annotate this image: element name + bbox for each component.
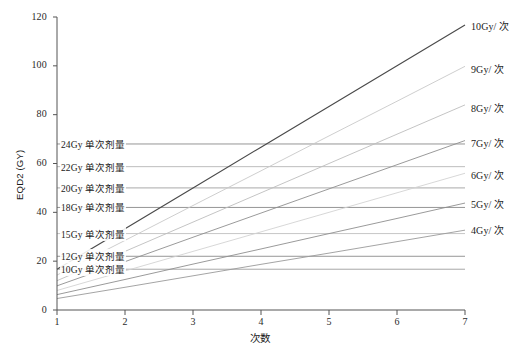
series-label-0: 10Gy/ 次: [471, 18, 509, 33]
y-tick-label-4: 80: [17, 108, 47, 119]
x-axis-title: 次数: [200, 330, 320, 345]
x-tick-label-1: 2: [115, 316, 135, 327]
series-label-4: 6Gy/ 次: [471, 167, 504, 182]
y-tick-label-5: 100: [17, 59, 47, 70]
series-label-6: 4Gy/ 次: [471, 222, 504, 237]
x-tick-label-3: 4: [251, 316, 271, 327]
series-label-1: 9Gy/ 次: [471, 61, 504, 76]
plot-area: [0, 0, 518, 356]
eqd2-fractionation-chart: EQD2 (GY) 次数 020406080100120123456724Gy …: [0, 0, 518, 356]
reference-line-label-6: 10Gy 单次剂量: [60, 262, 126, 276]
y-tick-label-6: 120: [17, 11, 47, 22]
reference-line-label-0: 24Gy 单次剂量: [60, 137, 126, 151]
y-tick-label-1: 20: [17, 255, 47, 266]
x-tick-label-0: 1: [47, 316, 67, 327]
x-tick-label-4: 5: [319, 316, 339, 327]
y-tick-label-2: 40: [17, 206, 47, 217]
series-label-5: 5Gy/ 次: [471, 196, 504, 211]
x-tick-label-2: 3: [183, 316, 203, 327]
y-tick-label-3: 60: [17, 157, 47, 168]
x-tick-label-6: 7: [455, 316, 475, 327]
series-label-2: 8Gy/ 次: [471, 100, 504, 115]
reference-line-label-2: 20Gy 单次剂量: [60, 181, 126, 195]
y-tick-label-0: 0: [17, 304, 47, 315]
reference-line-label-4: 15Gy 单次剂量: [60, 227, 126, 241]
reference-line-label-3: 18Gy 单次剂量: [60, 200, 126, 214]
x-tick-label-5: 6: [387, 316, 407, 327]
reference-line-label-5: 12Gy 单次剂量: [60, 249, 126, 263]
reference-line-label-1: 22Gy 单次剂量: [60, 160, 126, 174]
series-label-3: 7Gy/ 次: [471, 135, 504, 150]
